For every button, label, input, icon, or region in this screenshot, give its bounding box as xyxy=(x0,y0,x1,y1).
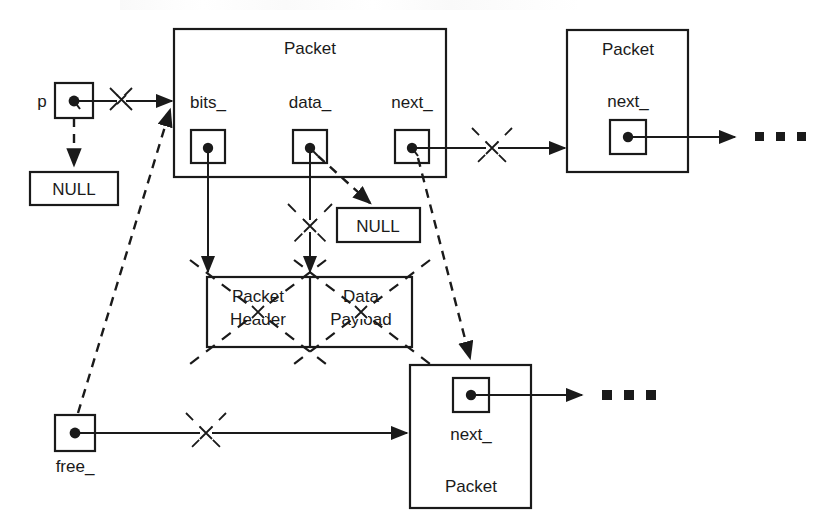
packet-bottom-right-next-label: next_ xyxy=(450,425,492,444)
edge-free-to-packet-main-line xyxy=(78,110,170,413)
free-pointer-box[interactable]: free_ xyxy=(55,415,95,476)
data-payload-box[interactable]: Data Payload xyxy=(294,260,430,364)
edge-p-to-packet-main-xmark xyxy=(110,88,132,110)
data-payload-xmark xyxy=(294,260,430,364)
null-left-box[interactable]: NULL xyxy=(30,172,118,205)
field-bits-label: bits_ xyxy=(190,93,226,112)
edge-free-to-packet-bottom xyxy=(75,413,407,453)
packet-header-box[interactable]: Packet Header xyxy=(190,260,326,364)
edge-free-to-packet-main xyxy=(78,110,170,413)
edge-next-bottom-to-ellipsis xyxy=(471,390,656,400)
diagram-canvas: Packet bits_ data_ next_ xyxy=(0,0,821,525)
edge-next-to-packet-bottom xyxy=(418,158,470,358)
packet-bottom-right[interactable]: next_ Packet xyxy=(410,365,531,508)
field-bits-pointer-dot xyxy=(203,143,213,153)
packet-top-right-title: Packet xyxy=(602,40,654,59)
null-data-box[interactable]: NULL xyxy=(337,208,420,242)
edge-next-to-packet-bottom-line xyxy=(418,158,470,358)
null-data-label: NULL xyxy=(356,217,399,236)
ellipsis-bottom xyxy=(602,390,656,400)
field-next-main-label: next_ xyxy=(391,93,433,112)
packet-main-title: Packet xyxy=(284,39,336,58)
pointer-diagram-svg: Packet bits_ data_ next_ xyxy=(0,0,821,525)
edge-next-to-packet-top xyxy=(412,128,565,168)
edge-next-top-to-ellipsis xyxy=(628,132,806,141)
free-label: free_ xyxy=(56,457,95,476)
packet-top-right-next-label: next_ xyxy=(607,92,649,111)
packet-bottom-right-title: Packet xyxy=(445,477,497,496)
edge-data-to-data-payload xyxy=(288,152,332,272)
edge-p-to-packet-main xyxy=(74,88,172,110)
field-next-main[interactable]: next_ xyxy=(391,93,433,163)
packet-header-label-1: Packet xyxy=(232,287,284,306)
packet-header-xmark xyxy=(190,260,326,364)
packet-top-right[interactable]: Packet next_ xyxy=(567,30,688,172)
buffer-boxes[interactable]: Packet Header Data Payload xyxy=(190,260,430,364)
ellipsis-top xyxy=(755,132,806,141)
field-data-label: data_ xyxy=(289,93,332,112)
p-label: p xyxy=(37,92,46,111)
null-left-label: NULL xyxy=(52,180,95,199)
